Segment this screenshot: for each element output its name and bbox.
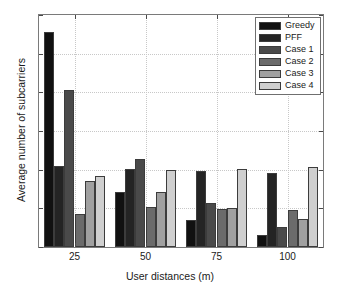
y-tick-mark — [39, 15, 43, 16]
legend-swatch-icon — [259, 82, 281, 90]
x-tick-label: 50 — [126, 252, 166, 262]
figure: 024681012 255075100 Average number of su… — [0, 0, 340, 289]
x-tick-mark — [217, 243, 218, 247]
y-tick-mark — [319, 131, 323, 132]
bar-case-4-25 — [95, 176, 105, 247]
legend-swatch-icon — [259, 22, 281, 30]
bar-case-2-50 — [146, 207, 156, 247]
bar-case-2-25 — [75, 214, 85, 247]
x-tick-mark — [75, 15, 76, 19]
bar-pff-75 — [196, 171, 206, 247]
bar-case-1-25 — [64, 90, 74, 247]
bar-case-3-50 — [156, 192, 166, 247]
bar-greedy-75 — [186, 220, 196, 247]
legend-swatch-icon — [259, 46, 281, 54]
y-tick-mark — [319, 15, 323, 16]
bar-case-1-75 — [206, 203, 216, 247]
bar-case-4-100 — [308, 167, 318, 247]
bar-case-4-75 — [237, 169, 247, 247]
legend: GreedyPFFCase 1Case 2Case 3Case 4 — [255, 17, 321, 95]
legend-item-case-2[interactable]: Case 2 — [259, 56, 317, 67]
legend-label: Greedy — [285, 21, 315, 30]
bar-case-1-100 — [277, 227, 287, 247]
legend-label: Case 2 — [285, 57, 314, 66]
x-tick-mark — [146, 15, 147, 19]
legend-item-pff[interactable]: PFF — [259, 32, 317, 43]
bar-pff-100 — [267, 173, 277, 247]
bar-pff-50 — [125, 169, 135, 247]
bar-greedy-100 — [257, 235, 267, 247]
y-tick-mark — [319, 247, 323, 248]
gridline-vertical — [75, 15, 76, 247]
bar-case-1-50 — [135, 159, 145, 247]
legend-swatch-icon — [259, 70, 281, 78]
y-tick-mark — [39, 170, 43, 171]
x-tick-label: 25 — [55, 252, 95, 262]
y-tick-mark — [39, 247, 43, 248]
legend-swatch-icon — [259, 34, 281, 42]
bar-case-3-100 — [298, 219, 308, 247]
legend-label: Case 1 — [285, 45, 314, 54]
x-tick-mark — [288, 243, 289, 247]
legend-label: Case 4 — [285, 81, 314, 90]
y-axis-title: Average number of subcarriers — [15, 13, 27, 247]
y-tick-mark — [39, 92, 43, 93]
x-tick-mark — [75, 243, 76, 247]
legend-item-case-3[interactable]: Case 3 — [259, 68, 317, 79]
x-tick-mark — [146, 243, 147, 247]
y-tick-mark — [39, 131, 43, 132]
legend-label: PFF — [285, 33, 302, 42]
gridline-horizontal — [39, 170, 323, 171]
legend-label: Case 3 — [285, 69, 314, 78]
bar-pff-25 — [54, 166, 64, 247]
y-tick-mark — [39, 54, 43, 55]
legend-item-case-1[interactable]: Case 1 — [259, 44, 317, 55]
y-tick-mark — [39, 208, 43, 209]
bar-case-4-50 — [166, 170, 176, 247]
x-tick-label: 100 — [268, 252, 308, 262]
legend-item-case-4[interactable]: Case 4 — [259, 80, 317, 91]
x-tick-mark — [217, 15, 218, 19]
legend-swatch-icon — [259, 58, 281, 66]
bar-case-3-25 — [85, 181, 95, 247]
gridline-horizontal — [39, 131, 323, 132]
bar-greedy-25 — [44, 32, 54, 247]
legend-item-greedy[interactable]: Greedy — [259, 20, 317, 31]
y-tick-mark — [319, 208, 323, 209]
bar-case-2-75 — [217, 209, 227, 247]
y-tick-mark — [319, 170, 323, 171]
bar-greedy-50 — [115, 192, 125, 247]
bar-case-3-75 — [227, 208, 237, 247]
gridline-horizontal — [39, 208, 323, 209]
x-tick-label: 75 — [197, 252, 237, 262]
x-axis-title: User distances (m) — [0, 270, 340, 282]
bar-case-2-100 — [288, 210, 298, 247]
